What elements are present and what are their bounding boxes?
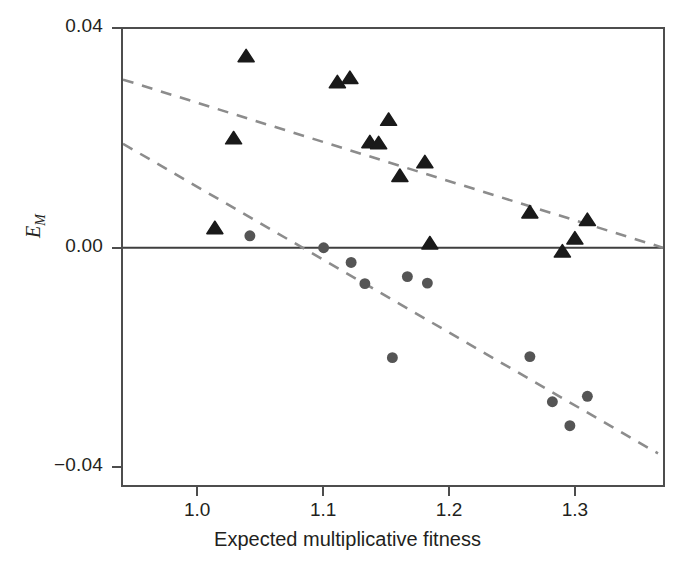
y-tick-mark <box>112 27 121 29</box>
y-tick-mark <box>112 466 121 468</box>
x-tick-mark <box>574 487 576 496</box>
plot-canvas <box>123 29 663 485</box>
data-point-triangle <box>417 155 433 167</box>
data-point-circle <box>346 257 357 268</box>
data-point-triangle <box>238 49 254 61</box>
data-point-triangle <box>381 113 397 125</box>
data-point-triangle <box>392 169 408 181</box>
x-tick-label: 1.1 <box>293 499 353 521</box>
x-tick-mark <box>196 487 198 496</box>
y-tick-label: 0.04 <box>11 15 103 37</box>
series-circles <box>244 230 592 431</box>
x-tick-mark <box>322 487 324 496</box>
data-point-circle <box>582 391 593 402</box>
data-point-circle <box>547 396 558 407</box>
scatter-plot-figure: EM 0.040.00−0.04 1.01.11.21.3 Expected m… <box>0 0 695 583</box>
data-point-triangle <box>567 232 583 244</box>
data-point-triangle <box>226 131 242 143</box>
data-point-circle <box>402 271 413 282</box>
data-point-triangle <box>579 213 595 225</box>
data-point-circle <box>318 242 329 253</box>
data-point-circle <box>359 278 370 289</box>
x-axis-title: Expected multiplicative fitness <box>0 528 695 551</box>
y-axis-title-subscript: M <box>33 214 48 226</box>
data-point-circle <box>244 230 255 241</box>
data-point-triangle <box>422 237 438 249</box>
x-tick-label: 1.2 <box>419 499 479 521</box>
data-point-triangle <box>554 245 570 257</box>
data-point-triangle <box>522 206 538 218</box>
data-point-circle <box>564 420 575 431</box>
data-point-circle <box>387 352 398 363</box>
data-point-triangle <box>207 221 223 233</box>
x-tick-label: 1.3 <box>545 499 605 521</box>
plot-area <box>121 27 665 487</box>
y-tick-label: −0.04 <box>11 454 103 476</box>
data-point-circle <box>422 278 433 289</box>
y-tick-mark <box>112 247 121 249</box>
data-point-triangle <box>342 71 358 83</box>
y-tick-label: 0.00 <box>11 235 103 257</box>
data-point-circle <box>524 351 535 362</box>
x-tick-mark <box>448 487 450 496</box>
x-tick-label: 1.0 <box>167 499 227 521</box>
circle-trend <box>123 144 658 454</box>
